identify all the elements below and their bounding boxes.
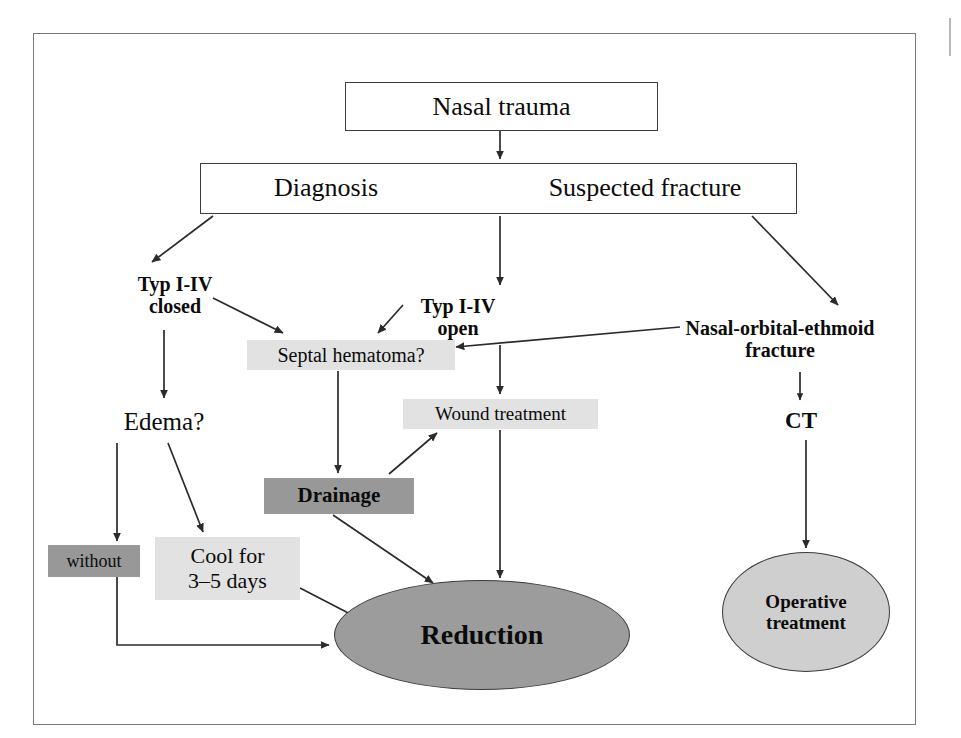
page-edge-artifact — [949, 18, 951, 56]
node-edema: Edema? — [105, 405, 223, 439]
node-suspected-fracture-label: Suspected fracture — [500, 170, 790, 206]
node-typ-open: Typ I-IV open — [398, 290, 518, 344]
node-cool-for-days: Cool for 3–5 days — [155, 537, 300, 600]
diagram-page: Nasal trauma Diagnosis Suspected fractur… — [0, 0, 961, 738]
node-drainage: Drainage — [264, 478, 414, 514]
node-nasal-trauma: Nasal trauma — [345, 82, 658, 131]
node-septal-hematoma: Septal hematoma? — [247, 340, 455, 370]
node-ct: CT — [770, 405, 832, 437]
node-without: without — [48, 545, 140, 577]
node-nasal-orbital-ethmoid-fracture: Nasal-orbital-ethmoid fracture — [670, 312, 890, 366]
node-typ-closed: Typ I-IV closed — [110, 268, 240, 322]
node-diagnosis-label: Diagnosis — [236, 170, 416, 206]
node-operative-treatment: Operative treatment — [722, 552, 890, 672]
node-reduction: Reduction — [334, 580, 630, 690]
node-wound-treatment: Wound treatment — [403, 399, 598, 429]
